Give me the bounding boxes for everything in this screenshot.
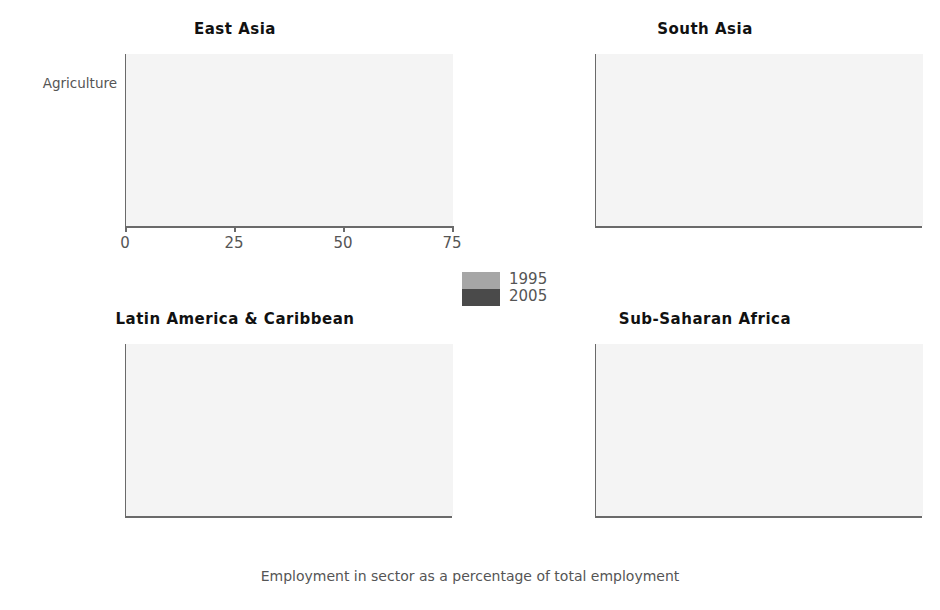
x-tick-label-25: 25 [224,234,243,252]
x-tick-50 [343,226,345,232]
y-axis-label-agriculture: Agriculture [0,75,117,91]
x-axis-line-sub-saharan-africa [595,516,922,518]
legend-label-1995: 1995 [509,270,547,288]
plot-area-east-asia [125,54,453,226]
panel-sub-saharan-africa: Sub-Saharan Africa [470,310,940,560]
legend-swatch-1995 [462,272,500,289]
x-axis-line-south-asia [595,226,922,228]
plot-area-sub-saharan-africa [595,344,923,516]
x-tick-label-50: 50 [333,234,352,252]
panel-latin-america-caribbean: Latin America & Caribbean [0,310,470,560]
x-axis-line-east-asia [125,226,452,228]
plot-area-south-asia [595,54,923,226]
plot-area-latin-america-caribbean [125,344,453,516]
legend-swatch-2005 [462,289,500,306]
panel-title-south-asia: South Asia [470,20,940,38]
panel-title-east-asia: East Asia [0,20,470,38]
x-axis-line-latin-america-caribbean [125,516,452,518]
legend: 1995 2005 [462,272,642,320]
x-tick-25 [234,226,236,232]
x-tick-0 [125,226,127,232]
legend-label-2005: 2005 [509,287,547,305]
x-tick-label-0: 0 [120,234,130,252]
figure-small-multiples-bar-charts: East Asia 0255075Agriculture South Asia … [0,0,940,610]
panel-title-latin-america-caribbean: Latin America & Caribbean [0,310,470,328]
x-tick-75 [452,226,454,232]
x-axis-label: Employment in sector as a percentage of … [0,568,940,584]
panel-east-asia: East Asia 0255075Agriculture [0,20,470,270]
panel-south-asia: South Asia [470,20,940,270]
x-tick-label-75: 75 [442,234,461,252]
